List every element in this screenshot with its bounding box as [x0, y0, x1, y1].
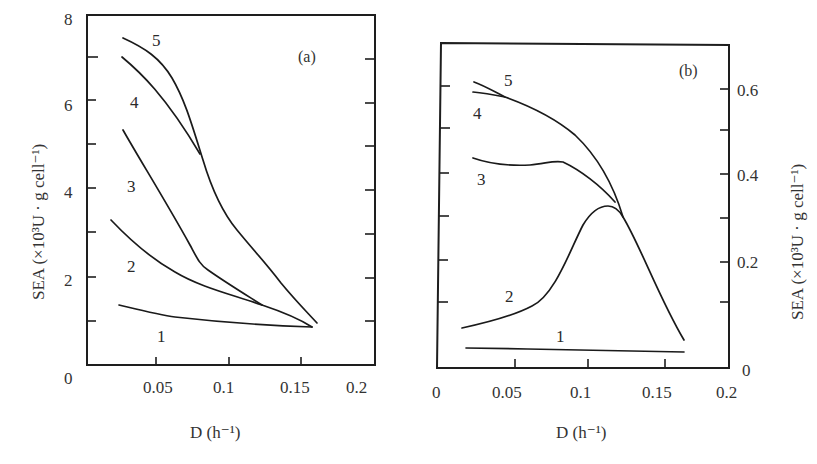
panel-b-curve-1: [466, 348, 684, 352]
panel-a-xtick-015: 0.15: [280, 378, 310, 397]
panel-a-curve-label-1: 1: [157, 327, 166, 346]
panel-b-xtick-005: 0.05: [492, 383, 522, 402]
panel-b-curve-label-1: 1: [556, 327, 565, 346]
figure: 8 6 4 2 0 0.05 0.1 0.15 0.2 D (h⁻¹) SEA …: [0, 0, 817, 464]
panel-a-curve-label-4: 4: [130, 93, 139, 112]
panel-b-curve-label-4: 4: [473, 104, 482, 123]
panel-a-ytick-4: 4: [64, 183, 73, 202]
panel-b-right-ticks: [720, 89, 729, 302]
panel-b-curve-2: [462, 206, 684, 340]
panel-b: 0.6 0.4 0.2 0 0 0.05 0.1 0.15 0.2 D (h⁻¹…: [432, 43, 807, 442]
panel-a-curve-label-2: 2: [127, 257, 136, 276]
panel-b-ytick-04: 0.4: [737, 166, 759, 185]
panel-a-ytick-6: 6: [64, 96, 73, 115]
panel-b-curve-label-5: 5: [504, 71, 513, 90]
panel-b-ylabel: SEA (×10³U · g cell⁻¹): [788, 164, 807, 320]
panel-b-ytick-02: 0.2: [737, 253, 758, 272]
panel-b-xlabel: D (h⁻¹): [556, 423, 606, 442]
panel-b-x-ticks: [515, 359, 665, 368]
panel-a-curve-3: [123, 130, 262, 305]
panel-b-frame: [437, 43, 729, 368]
panel-a: 8 6 4 2 0 0.05 0.1 0.15 0.2 D (h⁻¹) SEA …: [29, 10, 375, 442]
panel-b-ytick-0: 0: [742, 361, 751, 380]
panel-a-left-ticks: [87, 57, 98, 321]
panel-b-xtick-0: 0: [432, 383, 441, 402]
panel-a-xtick-02: 0.2: [346, 378, 367, 397]
panel-b-xtick-015: 0.15: [642, 383, 672, 402]
panel-a-x-ticks: [156, 357, 301, 365]
panel-a-xlabel: D (h⁻¹): [190, 423, 240, 442]
panel-b-xtick-02: 0.2: [716, 383, 737, 402]
panel-a-xtick-01: 0.1: [213, 378, 234, 397]
panel-b-curve-5: [474, 82, 623, 217]
panel-a-tag: (a): [298, 48, 316, 66]
panel-b-curve-label-2: 2: [505, 287, 514, 306]
panel-b-curve-label-3: 3: [477, 170, 486, 189]
panel-a-curve-1: [119, 305, 312, 327]
panel-a-ytick-2: 2: [64, 271, 73, 290]
panel-b-curve-3: [473, 158, 615, 202]
panel-a-ytick-0: 0: [64, 369, 73, 388]
panel-b-ytick-06: 0.6: [737, 81, 758, 100]
panel-a-ylabel: SEA (×10³U · g cell⁻¹): [29, 144, 48, 300]
panel-a-curve-label-5: 5: [152, 31, 161, 50]
panel-a-curve-label-3: 3: [127, 177, 136, 196]
panel-a-ytick-8: 8: [64, 10, 73, 29]
panel-a-right-ticks: [365, 59, 375, 321]
panel-a-xtick-005: 0.05: [143, 378, 173, 397]
panel-b-xtick-01: 0.1: [570, 383, 591, 402]
panel-b-tag: (b): [679, 62, 698, 80]
